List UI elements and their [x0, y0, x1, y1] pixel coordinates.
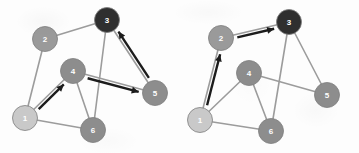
node-2[interactable]: 2 [33, 27, 58, 52]
arrow-1-to-4 [39, 84, 64, 109]
node-circle-2[interactable] [209, 26, 234, 51]
arrow-5-to-3 [118, 32, 148, 78]
node-6[interactable]: 6 [259, 119, 284, 144]
node-circle-1[interactable] [13, 106, 38, 131]
node-4[interactable]: 4 [61, 59, 86, 84]
node-2[interactable]: 2 [209, 26, 234, 51]
node-circle-3[interactable] [277, 10, 302, 35]
edge-3-6 [271, 22, 289, 131]
node-circle-5[interactable] [143, 81, 168, 106]
diagram-canvas: 123456 123456 [0, 0, 359, 153]
node-4[interactable]: 4 [237, 61, 262, 86]
node-circle-1[interactable] [188, 108, 213, 133]
node-circle-5[interactable] [315, 83, 340, 108]
node-circle-4[interactable] [237, 61, 262, 86]
edge-3-6 [93, 20, 107, 130]
right-graph-panel: 123456 [179, 0, 359, 153]
node-circle-2[interactable] [33, 27, 58, 52]
node-3[interactable]: 3 [277, 10, 302, 35]
node-1[interactable]: 1 [13, 106, 38, 131]
node-circle-3[interactable] [95, 8, 120, 33]
node-5[interactable]: 5 [315, 83, 340, 108]
node-1[interactable]: 1 [188, 108, 213, 133]
left-graph-panel: 123456 [0, 0, 179, 153]
right-graph-svg: 123456 [179, 0, 359, 153]
node-6[interactable]: 6 [81, 118, 106, 143]
node-circle-6[interactable] [259, 119, 284, 144]
left-graph-svg: 123456 [0, 0, 179, 153]
node-5[interactable]: 5 [143, 81, 168, 106]
node-circle-4[interactable] [61, 59, 86, 84]
node-circle-6[interactable] [81, 118, 106, 143]
node-3[interactable]: 3 [95, 8, 120, 33]
